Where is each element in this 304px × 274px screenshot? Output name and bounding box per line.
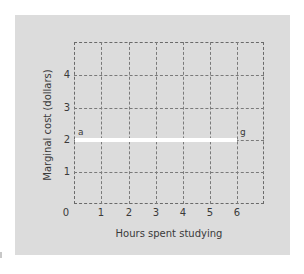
y-tick-3: 3 [58,103,70,113]
y-tick-4: 4 [58,70,70,80]
x-tick-2: 2 [123,208,135,218]
point-label-g: g [240,128,246,137]
marginal-cost-line [75,138,237,142]
gridline-y-1 [74,172,264,173]
edge-artifact [0,252,2,258]
y-axis-label: Marginal cost (dollars) [42,69,53,180]
x-tick-1: 1 [95,208,107,218]
x-axis-label: Hours spent studying [116,228,223,239]
gridline-x-5 [210,42,211,204]
x-tick-4: 4 [177,208,189,218]
gridline-y-4 [74,75,264,76]
x-tick-3: 3 [150,208,162,218]
gridline-y-3 [74,108,264,109]
point-label-a: a [78,128,84,137]
x-tick-0: 0 [60,208,72,218]
gridline-x-4 [183,42,184,204]
gridline-x-6 [237,42,238,204]
y-tick-2: 2 [58,135,70,145]
gridline-x-1 [101,42,102,204]
x-tick-6: 6 [231,208,243,218]
y-tick-1: 1 [58,167,70,177]
gridline-x-3 [156,42,157,204]
x-tick-5: 5 [204,208,216,218]
gridline-x-2 [129,42,130,204]
plot-area [74,42,264,204]
